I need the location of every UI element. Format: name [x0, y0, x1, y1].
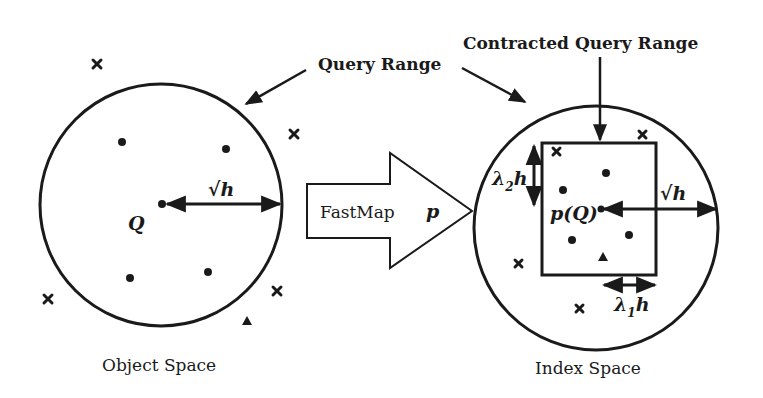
contracted-query-range-label: Contracted Query Range	[463, 33, 698, 53]
index-space-panel: p(Q) √h λ2h λ1h Index Space	[474, 106, 718, 378]
lambda2-label: λ2h	[491, 167, 528, 194]
fastmap-transform-arrow: FastMap p	[307, 153, 472, 268]
query-range-callout: Query Range	[246, 54, 525, 104]
cross-icon	[290, 130, 298, 138]
mapped-query-point-icon	[598, 206, 605, 213]
index-space-caption: Index Space	[535, 358, 641, 378]
object-space-caption: Object Space	[102, 355, 216, 375]
triangle-icon	[242, 316, 252, 325]
dot-icon	[222, 145, 230, 153]
lambda1-label: λ1h	[613, 293, 650, 320]
cross-icon	[639, 131, 646, 138]
fastmap-label: FastMap	[320, 202, 395, 222]
dot-icon	[204, 268, 212, 276]
dot-icon	[568, 236, 576, 244]
cross-icon	[93, 60, 101, 68]
dot-icon	[126, 274, 134, 282]
triangle-icon	[598, 252, 608, 261]
dot-icon	[625, 231, 633, 239]
cross-icon	[44, 295, 52, 303]
radius-label: √h	[208, 178, 234, 200]
cross-icon	[576, 305, 583, 312]
mapped-radius-label: √h	[660, 182, 686, 204]
fastmap-diagram: Q √h Object Space FastMap p Query Range	[0, 0, 763, 398]
cross-icon	[273, 287, 281, 295]
query-label: Q	[128, 212, 145, 234]
dot-icon	[559, 186, 567, 194]
cross-icon	[515, 260, 522, 267]
query-range-label: Query Range	[318, 54, 442, 74]
object-space-panel: Q √h Object Space	[40, 60, 298, 375]
query-point-icon	[158, 200, 166, 208]
dot-icon	[118, 138, 126, 146]
dot-icon	[602, 169, 610, 177]
cross-icon	[553, 148, 560, 155]
fastmap-symbol: p	[426, 200, 440, 222]
mapped-query-label: p(Q)	[550, 202, 598, 224]
